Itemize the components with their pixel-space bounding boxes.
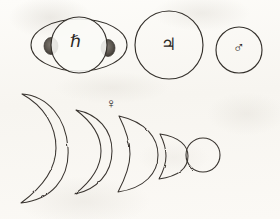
plate-drawing: [0, 0, 280, 219]
venus-phase-2: [75, 110, 112, 194]
saturn-symbol-icon: ℏ: [70, 33, 81, 50]
venus-phase-2-outline: [75, 110, 112, 194]
venus-phase-3: [118, 116, 158, 192]
venus-phase-1-outline: [21, 94, 68, 203]
venus-phase-1: [21, 94, 68, 203]
venus-phase-4-outline: [159, 134, 188, 179]
jupiter-symbol-icon: ♃: [161, 36, 176, 53]
venus-phase-5-outline: [186, 138, 220, 172]
venus-phase-5: [186, 138, 220, 172]
venus-phase-3-outline: [118, 116, 158, 192]
astronomical-plate: ℏ ♃ ♂ ♀: [0, 0, 280, 219]
venus-phase-4: [159, 134, 188, 179]
mars-symbol-icon: ♂: [233, 40, 245, 56]
venus-symbol-icon: ♀: [106, 97, 117, 111]
